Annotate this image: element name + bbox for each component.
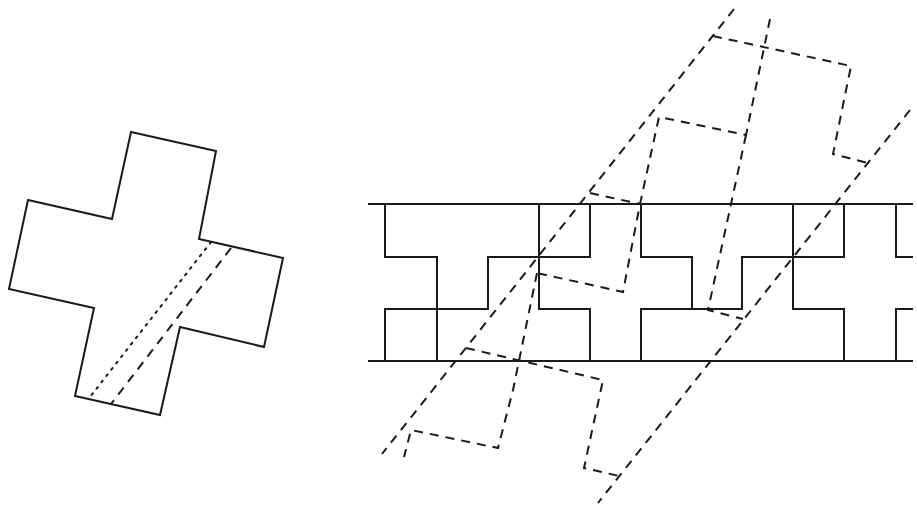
strip-tessellation <box>368 204 913 361</box>
long-dashed-line-left <box>382 9 734 454</box>
cross-shape <box>9 132 283 415</box>
dashed-cut-line <box>111 248 231 404</box>
cross-outline <box>9 132 283 415</box>
dashed-cross-middle-left <box>404 273 537 457</box>
dashed-cross-upper-outer <box>713 36 868 163</box>
tessellation-diagram <box>0 0 917 522</box>
dotted-cut-line <box>90 242 211 397</box>
dashed-cross-upper <box>537 19 770 292</box>
long-dashed-line-right <box>598 110 910 503</box>
tile-outlines <box>368 204 913 361</box>
dashed-cross-lower <box>466 348 619 476</box>
